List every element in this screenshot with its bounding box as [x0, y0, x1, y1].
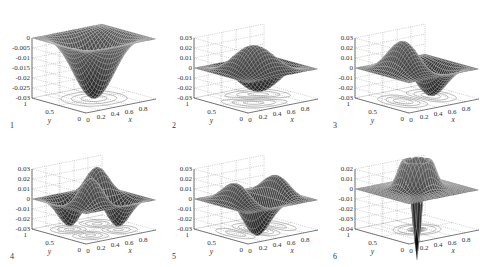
- z-tick-label: -0.02: [15, 74, 30, 82]
- x-tick-label: 0.8: [462, 236, 471, 244]
- x-axis-ticks: 00.20.40.60.8: [86, 105, 148, 124]
- y-tick-label: 1: [186, 231, 190, 239]
- y-tick-label: 1: [186, 100, 190, 108]
- z-tick-label: 0.02: [180, 175, 193, 183]
- z-tick-label: -0.01: [15, 54, 30, 62]
- x-axis-ticks: 00.20.40.60.8: [86, 236, 148, 255]
- z-tick-label: 0.02: [341, 44, 354, 52]
- x-axis-ticks: 00.20.40.60.8: [409, 105, 471, 124]
- y-tick-label: 0.5: [45, 108, 54, 116]
- y-axis-label: y: [47, 247, 52, 256]
- panel-number-label: 4: [10, 252, 14, 261]
- z-tick-label: -0.02: [338, 205, 353, 213]
- y-tick-label: 0: [401, 246, 405, 254]
- x-tick-label: 0: [86, 247, 90, 255]
- x-tick-label: 0.2: [420, 113, 429, 121]
- plot-canvas: 0.030.020.010-0.01-0.02-0.0300.20.40.60.…: [0, 131, 163, 264]
- z-tick-label: -0.015: [12, 64, 31, 72]
- z-tick-label: -0.02: [338, 84, 353, 92]
- z-tick-label: -0.005: [12, 44, 31, 52]
- x-tick-label: 0: [409, 116, 413, 124]
- y-tick-label: 0: [78, 246, 82, 254]
- surface-plot-1: 0-0.005-0.01-0.015-0.02-0.025-0.0300.20.…: [0, 0, 163, 133]
- x-tick-label: 0.2: [259, 113, 268, 121]
- x-tick-label: 0.2: [97, 244, 106, 252]
- x-tick-label: 0.4: [111, 110, 120, 118]
- y-tick-label: 1: [347, 100, 351, 108]
- x-axis-label: x: [290, 246, 295, 255]
- x-tick-label: 0.8: [462, 105, 471, 113]
- z-tick-label: 0: [189, 64, 193, 72]
- plot-canvas: 0.030.020.010-0.01-0.02-0.0300.20.40.60.…: [162, 0, 325, 133]
- x-axis-ticks: 00.20.40.60.8: [248, 236, 310, 255]
- z-axis-ticks: 0.030.020.010-0.01-0.02-0.03: [177, 165, 192, 233]
- x-axis-label: x: [128, 115, 133, 124]
- y-axis-label: y: [370, 247, 375, 256]
- y-tick-label: 0.5: [368, 239, 377, 247]
- z-tick-label: 0.02: [180, 44, 193, 52]
- surface-mesh: [355, 41, 479, 96]
- panel-number-label: 2: [172, 121, 176, 130]
- y-tick-label: 0: [240, 246, 244, 254]
- z-tick-label: 0.01: [180, 185, 193, 193]
- z-tick-label: 0.03: [180, 34, 193, 42]
- panel-number-label: 1: [10, 121, 14, 130]
- y-axis-label: y: [209, 116, 214, 125]
- panel-number-label: 5: [172, 252, 176, 261]
- z-tick-label: 0.03: [341, 34, 354, 42]
- x-axis-label: x: [451, 246, 456, 255]
- z-axis-ticks: 0.030.020.010-0.01-0.02-0.03: [338, 34, 353, 102]
- z-tick-label: 0.01: [180, 54, 193, 62]
- z-tick-label: 0: [350, 185, 354, 193]
- z-tick-label: -0.01: [338, 74, 353, 82]
- x-tick-label: 0.2: [259, 244, 268, 252]
- z-tick-label: 0.01: [18, 185, 31, 193]
- x-tick-label: 0: [248, 247, 252, 255]
- y-tick-label: 1: [24, 231, 28, 239]
- surface-plot-2: 0.030.020.010-0.01-0.02-0.0300.20.40.60.…: [162, 0, 325, 133]
- z-tick-label: -0.01: [338, 195, 353, 203]
- x-tick-label: 0.8: [139, 105, 148, 113]
- x-tick-label: 0: [86, 116, 90, 124]
- z-tick-label: -0.01: [177, 205, 192, 213]
- x-tick-label: 0.8: [301, 236, 310, 244]
- surface-plot-3: 0.030.020.010-0.01-0.02-0.0300.20.40.60.…: [323, 0, 486, 133]
- y-axis-label: y: [370, 116, 375, 125]
- x-tick-label: 0.4: [111, 241, 120, 249]
- surface-plot-4: 0.030.020.010-0.01-0.02-0.0300.20.40.60.…: [0, 131, 163, 264]
- y-tick-label: 1: [347, 231, 351, 239]
- x-axis-label: x: [128, 246, 133, 255]
- z-tick-label: -0.02: [15, 215, 30, 223]
- y-tick-label: 0.5: [207, 108, 216, 116]
- z-tick-label: -0.025: [12, 84, 31, 92]
- y-tick-label: 0.5: [207, 239, 216, 247]
- z-tick-label: 0.02: [18, 175, 31, 183]
- y-tick-label: 1: [24, 100, 28, 108]
- plot-canvas: 0-0.005-0.01-0.015-0.02-0.025-0.0300.20.…: [0, 0, 163, 133]
- surface-mesh: [194, 45, 318, 92]
- x-tick-label: 0.4: [273, 110, 282, 118]
- z-tick-label: 0.01: [341, 54, 354, 62]
- y-tick-label: 0.5: [45, 239, 54, 247]
- plot-canvas: 0.020.010-0.01-0.02-0.03-0.0400.20.40.60…: [323, 131, 486, 264]
- z-axis-ticks: 0-0.005-0.01-0.015-0.02-0.025-0.03: [12, 34, 31, 102]
- x-tick-label: 0.4: [273, 241, 282, 249]
- y-tick-label: 0: [78, 115, 82, 123]
- x-tick-label: 0.8: [301, 105, 310, 113]
- z-axis-ticks: 0.030.020.010-0.01-0.02-0.03: [177, 34, 192, 102]
- z-tick-label: 0.01: [341, 175, 354, 183]
- x-tick-label: 0.4: [434, 110, 443, 118]
- x-tick-label: 0.4: [434, 241, 443, 249]
- y-axis-label: y: [209, 247, 214, 256]
- z-tick-label: -0.03: [338, 215, 353, 223]
- surface-plot-6: 0.020.010-0.01-0.02-0.03-0.0400.20.40.60…: [323, 131, 486, 264]
- z-tick-label: 0.03: [180, 165, 193, 173]
- surface-mesh: [32, 24, 156, 99]
- z-tick-label: 0.02: [341, 165, 354, 173]
- plot-canvas: 0.030.020.010-0.01-0.02-0.0300.20.40.60.…: [162, 131, 325, 264]
- z-axis-ticks: 0.020.010-0.01-0.02-0.03-0.04: [338, 165, 353, 233]
- x-axis-label: x: [451, 115, 456, 124]
- z-tick-label: 0: [189, 195, 193, 203]
- y-axis-label: y: [47, 116, 52, 125]
- x-axis-label: x: [290, 115, 295, 124]
